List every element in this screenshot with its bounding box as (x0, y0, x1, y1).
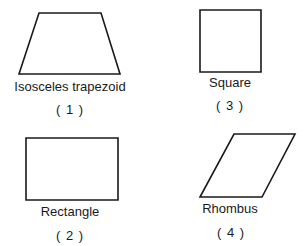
isosceles-trapezoid-shape (19, 13, 120, 74)
trapezoid-label: Isosceles trapezoid (14, 80, 125, 93)
square-label: Square (209, 76, 251, 89)
rectangle-label: Rectangle (41, 205, 100, 218)
rhombus-number: ( 4 ) (217, 226, 245, 239)
square-shape (200, 10, 261, 72)
rectangle-shape (26, 138, 118, 200)
rhombus-shape (200, 134, 295, 197)
square-number: ( 3 ) (216, 99, 244, 112)
rectangle-number: ( 2 ) (56, 229, 84, 242)
rhombus-label: Rhombus (202, 202, 258, 215)
trapezoid-number: ( 1 ) (56, 103, 84, 116)
